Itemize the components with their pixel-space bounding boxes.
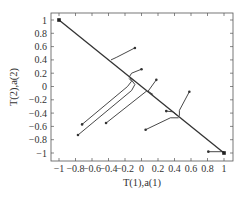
traj-4-start-dot: [77, 134, 80, 137]
x-tick-label: 0: [139, 163, 144, 174]
trajectory-chart: −1−0.8−0.6−0.4−0.200.20.40.60.81 10.80.6…: [0, 0, 243, 200]
x-tick-label: 0.6: [185, 163, 198, 174]
traj-8-start-dot: [165, 110, 168, 113]
y-tick-label: −1: [36, 148, 47, 159]
x-tick-label: −0.2: [116, 163, 134, 174]
traj-9-start-dot: [144, 128, 147, 131]
y-tick-label: −0.4: [29, 108, 47, 119]
y-tick-label: −0.8: [29, 134, 47, 145]
x-tick-label: 0.4: [168, 163, 181, 174]
traj-2-start-dot: [140, 68, 143, 71]
x-tick-label: −1: [54, 163, 65, 174]
x-tick-label: 0.8: [201, 163, 214, 174]
x-tick-label: 0.2: [152, 163, 165, 174]
y-tick-label: 0.6: [35, 41, 48, 52]
y-tick-label: 1: [42, 15, 47, 26]
x-tick-label: −0.8: [66, 163, 84, 174]
y-tick-label: 0.2: [35, 68, 48, 79]
x-tick-label: −0.4: [99, 163, 117, 174]
traj-5-start-dot: [155, 79, 158, 82]
attractor-marker: [57, 18, 61, 22]
y-axis-label: T(2),a(2): [8, 67, 20, 106]
y-tick-label: −0.6: [29, 121, 47, 132]
traj-3-start-dot: [81, 123, 84, 126]
x-tick-label: 1: [222, 163, 227, 174]
traj-1-start-dot: [134, 47, 137, 50]
y-tick-label: 0.4: [35, 54, 48, 65]
x-axis-label: T(1),a(1): [123, 177, 162, 189]
x-tick-label: −0.6: [83, 163, 101, 174]
traj-7-start-dot: [188, 91, 191, 94]
attractor-marker: [222, 151, 226, 155]
y-tick-label: 0.8: [35, 28, 48, 39]
traj-6-start-dot: [105, 122, 108, 125]
y-tick-label: 0: [42, 81, 47, 92]
y-tick-label: −0.2: [29, 94, 47, 105]
traj-10-start-dot: [207, 150, 210, 153]
